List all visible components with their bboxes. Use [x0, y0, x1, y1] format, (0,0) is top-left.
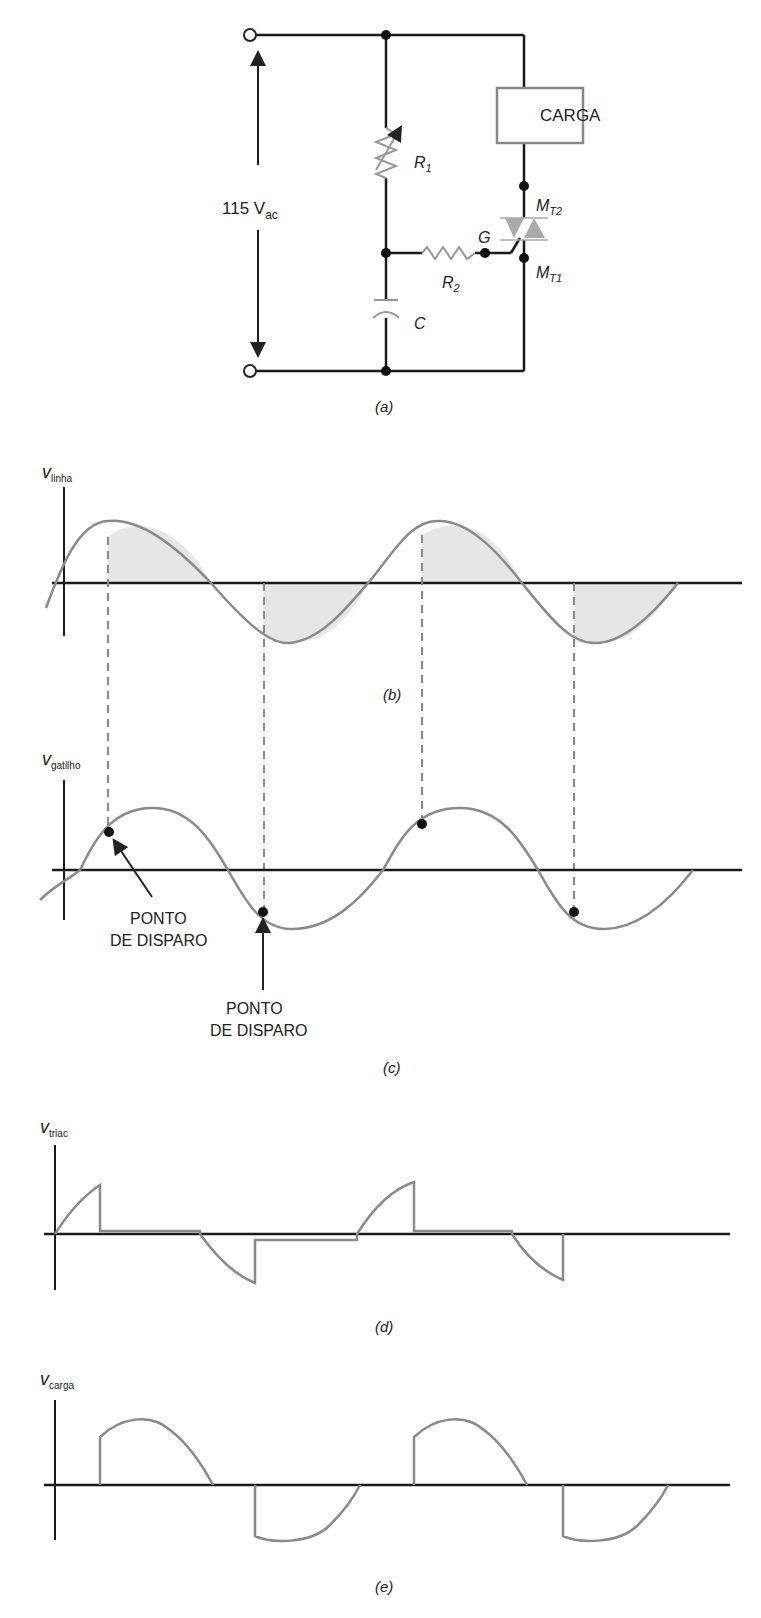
caption-e: (e): [375, 1578, 393, 1595]
junction-dots: [381, 30, 529, 376]
gate-label: G: [478, 229, 490, 246]
ylabel-e: vcarga: [40, 1369, 74, 1391]
annotation-trigger-2: PONTO: [226, 1000, 283, 1017]
caption-a: (a): [375, 398, 393, 415]
panel-d-triac-voltage: vtriac (d): [40, 1117, 730, 1335]
load-label: CARGA: [540, 106, 601, 125]
panel-b-line-voltage: vlinha (b): [42, 462, 742, 703]
ylabel-d: vtriac: [40, 1117, 68, 1139]
ylabel-b: vlinha: [42, 462, 73, 484]
panel-c-gate-voltage: PONTO DE DISPARO PONTO DE DISPARO vgatil…: [40, 749, 742, 1076]
svg-text:DE DISPARO: DE DISPARO: [210, 1022, 308, 1039]
panel-e-load-voltage: vcarga (e): [40, 1369, 730, 1595]
annotation-trigger-1: PONTO: [130, 910, 187, 927]
triac-phase-control-figure: 115 Vac CARGA R1 R2 C G MT2 MT1 (a) vlin…: [0, 0, 761, 1618]
r2-resistor: [422, 247, 475, 259]
caption-b: (b): [383, 686, 401, 703]
source-label: 115 Vac: [222, 199, 278, 222]
trigger-points: [104, 819, 579, 917]
svg-text:DE DISPARO: DE DISPARO: [110, 932, 208, 949]
circuit-diagram: [255, 35, 524, 371]
caption-d: (d): [375, 1318, 393, 1335]
r2-label: R2: [442, 274, 460, 294]
triac-symbol: [500, 218, 548, 240]
capacitor: [373, 300, 399, 318]
capacitor-label: C: [414, 315, 426, 332]
r1-label: R1: [414, 154, 432, 174]
ylabel-c: vgatilho: [42, 749, 81, 771]
mt1-label: MT1: [536, 264, 562, 284]
caption-c: (c): [383, 1059, 401, 1076]
mt2-label: MT2: [536, 197, 562, 217]
